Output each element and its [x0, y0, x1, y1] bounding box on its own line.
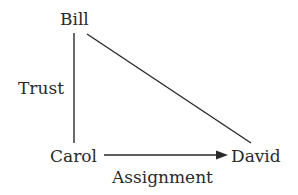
edge-label-assignment: Assignment	[112, 169, 213, 186]
node-carol: Carol	[50, 148, 97, 165]
relationship-diagram: Bill Carol David Trust Assignment	[0, 0, 298, 195]
node-bill: Bill	[60, 11, 89, 28]
edge-label-trust: Trust	[18, 80, 64, 97]
edge-bill-david	[87, 34, 251, 143]
node-david: David	[231, 148, 281, 165]
arrowhead-icon	[216, 151, 228, 160]
